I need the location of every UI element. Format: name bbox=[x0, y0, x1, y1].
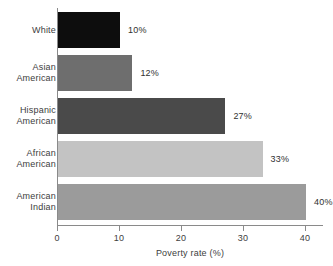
x-axis-tick-label-40: 40 bbox=[300, 233, 310, 243]
category-label-line: Hispanic bbox=[0, 105, 56, 116]
category-label-line: Indian bbox=[0, 202, 56, 213]
category-label-white: White bbox=[0, 25, 56, 36]
x-axis-tick-label-30: 30 bbox=[238, 233, 248, 243]
category-label-line: White bbox=[0, 25, 56, 36]
bar-value-american-indian: 40% bbox=[314, 197, 333, 207]
category-label-line: Asian bbox=[0, 62, 56, 73]
category-label-line: American bbox=[0, 116, 56, 127]
poverty-rate-bar-chart: 0 10 20 30 40 White Asian American Hispa… bbox=[0, 0, 333, 266]
bar-hispanic-american bbox=[58, 98, 225, 134]
x-axis-tick-10 bbox=[119, 226, 120, 231]
category-label-hispanic-american: Hispanic American bbox=[0, 105, 56, 127]
category-label-line: American bbox=[0, 191, 56, 202]
bar-value-asian-american: 12% bbox=[140, 68, 159, 78]
category-label-line: American bbox=[0, 159, 56, 170]
bar-american-indian bbox=[58, 184, 306, 220]
x-axis-title: Poverty rate (%) bbox=[57, 248, 323, 258]
x-axis-tick-30 bbox=[243, 226, 244, 231]
bar-african-american bbox=[58, 141, 263, 177]
x-axis-tick-label-0: 0 bbox=[54, 233, 59, 243]
x-axis-tick-label-10: 10 bbox=[114, 233, 124, 243]
x-axis-tick-0 bbox=[57, 226, 58, 231]
bar-value-african-american: 33% bbox=[271, 154, 290, 164]
category-label-line: American bbox=[0, 73, 56, 84]
category-label-african-american: African American bbox=[0, 148, 56, 170]
x-axis-tick-20 bbox=[181, 226, 182, 231]
x-axis-tick-40 bbox=[305, 226, 306, 231]
category-label-line: African bbox=[0, 148, 56, 159]
x-axis-line bbox=[57, 225, 323, 226]
bar-value-hispanic-american: 27% bbox=[233, 111, 252, 121]
x-axis-tick-label-20: 20 bbox=[176, 233, 186, 243]
category-label-american-indian: American Indian bbox=[0, 191, 56, 213]
bar-white bbox=[58, 12, 120, 48]
bar-asian-american bbox=[58, 55, 132, 91]
category-label-asian-american: Asian American bbox=[0, 62, 56, 84]
bar-value-white: 10% bbox=[128, 25, 147, 35]
